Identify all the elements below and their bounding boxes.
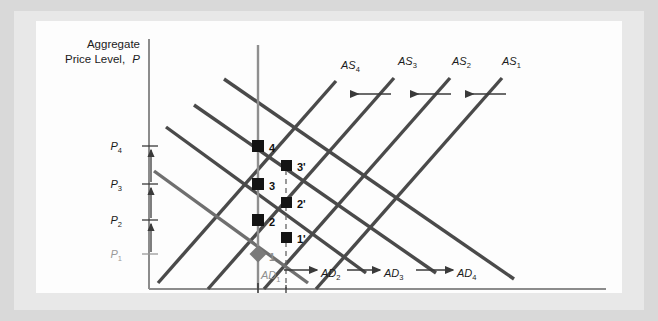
ad-label-3: AD3 (383, 267, 403, 282)
economics-as-ad-diagram: Aggregate Price Level, P Aggregate Outpu… (36, 21, 622, 293)
as-curve-3 (208, 78, 394, 289)
as-label-2: AS2 (451, 55, 471, 70)
as-label-1: AS1 (501, 55, 521, 70)
as-curves (158, 78, 502, 289)
equilibrium-dot-3prime (281, 160, 292, 171)
ad-curve-1 (154, 171, 308, 283)
ad-curve-4 (224, 79, 514, 279)
equilibrium-dot-1 (250, 246, 267, 263)
ad-curve-3 (194, 105, 436, 273)
price-label-p1: P1 (110, 248, 122, 263)
point-label-3prime: 3' (297, 161, 306, 173)
as-curve-labels: AS4 AS3 AS2 AS1 (340, 55, 521, 74)
ad-curves (154, 79, 514, 283)
as-curve-2 (264, 78, 450, 289)
price-label-p4: P4 (110, 140, 122, 155)
ad-label-4: AD4 (456, 267, 476, 282)
point-label-1prime: 1' (297, 233, 306, 245)
point-label-3: 3 (269, 180, 275, 192)
y-axis-title-line2-group: Price Level, P (65, 53, 140, 65)
as-curve-4 (158, 81, 336, 283)
y-axis-title-line1: Aggregate (87, 38, 140, 50)
y-axis-symbol: P (132, 53, 140, 65)
price-label-p3: P3 (110, 178, 122, 193)
as-label-3: AS3 (397, 55, 417, 70)
figure-canvas: Aggregate Price Level, P Aggregate Outpu… (36, 21, 622, 293)
point-label-2prime: 2' (297, 198, 306, 210)
point-label-2: 2 (269, 216, 275, 228)
equilibrium-dot-1prime (281, 232, 292, 243)
equilibrium-dot-2prime (281, 197, 292, 208)
equilibrium-dot-3 (252, 178, 264, 190)
point-label-4: 4 (269, 142, 276, 154)
price-label-p2: P2 (110, 214, 122, 229)
price-tick-labels: P4 P3 P2 P1 (110, 140, 122, 263)
equilibrium-dot-2 (252, 214, 264, 226)
y-axis-title-line2: Price Level, (65, 53, 125, 65)
equilibrium-dot-4 (252, 140, 264, 152)
figure-frame: Aggregate Price Level, P Aggregate Outpu… (14, 11, 644, 310)
point-label-1: 1 (269, 251, 275, 263)
y-axis-title: Aggregate Price Level, P (65, 38, 140, 65)
as-label-4: AS4 (340, 59, 360, 74)
